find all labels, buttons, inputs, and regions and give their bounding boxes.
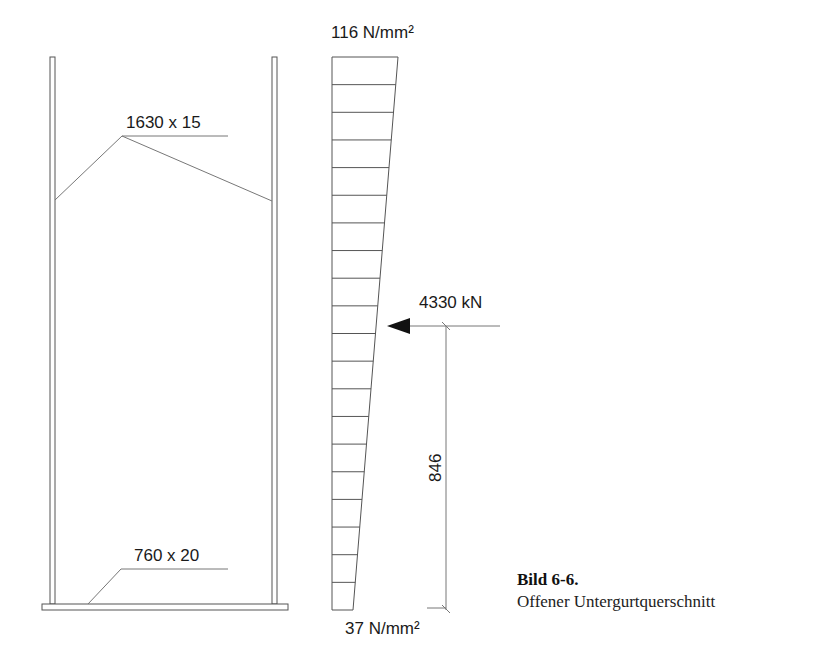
stress-strip-lines: [332, 85, 396, 583]
flange-leader-line: [88, 569, 228, 604]
flange-dimension-label: 760 x 20: [134, 546, 199, 565]
bottom-flange-plate: [42, 604, 288, 610]
top-stress-label: 116 N/mm²: [331, 23, 414, 42]
cross-section: 1630 x 15 760 x 20: [42, 57, 288, 610]
resultant-force: 4330 kN: [387, 293, 500, 334]
force-label: 4330 kN: [419, 293, 482, 312]
lever-arm-label: 846: [426, 454, 445, 482]
caption-number: Bild 6-6.: [517, 570, 578, 589]
force-arrow-head-icon: [387, 318, 410, 334]
web-leader-line: [55, 136, 272, 201]
lever-arm-dimension: 846: [426, 322, 450, 613]
caption-text: Offener Untergurtquerschnitt: [517, 592, 715, 611]
figure-caption: Bild 6-6. Offener Untergurtquerschnitt: [517, 570, 715, 611]
cross-section-figure: 1630 x 15 760 x 20 116 N/mm² 37 N/mm² 43…: [0, 0, 826, 669]
bottom-stress-label: 37 N/mm²: [345, 619, 420, 638]
right-web-plate: [272, 57, 277, 604]
web-dimension-label: 1630 x 15: [126, 113, 201, 132]
left-web-plate: [50, 57, 55, 604]
